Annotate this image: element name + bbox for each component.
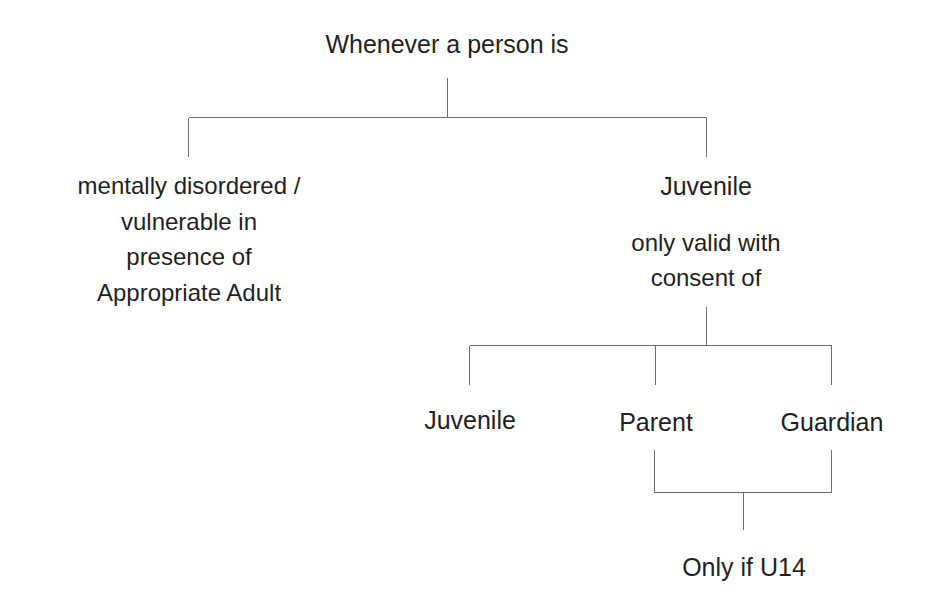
node-root: Whenever a person is <box>325 27 568 63</box>
node-consent-parent-label: Parent <box>619 405 693 441</box>
node-age-condition-label: Only if U14 <box>682 550 806 586</box>
node-mentally-disordered-line-4: Appropriate Adult <box>78 275 301 311</box>
node-mentally-disordered-line-1: mentally disordered / <box>78 168 301 204</box>
node-juvenile-branch-label: Juvenile <box>660 169 752 205</box>
node-mentally-disordered-line-2: vulnerable in <box>78 204 301 240</box>
node-consent-guardian-label: Guardian <box>781 405 884 441</box>
node-consent-requirement-line-2: consent of <box>631 261 780 296</box>
node-mentally-disordered-line-3: presence of <box>78 239 301 275</box>
node-consent-guardian: Guardian <box>781 405 884 441</box>
node-age-condition: Only if U14 <box>682 550 806 586</box>
flowchart-diagram: Whenever a person is mentally disordered… <box>0 0 938 616</box>
node-consent-parent: Parent <box>619 405 693 441</box>
node-consent-requirement: only valid with consent of <box>631 226 780 296</box>
node-root-label: Whenever a person is <box>325 27 568 63</box>
node-consent-juvenile-label: Juvenile <box>424 403 516 439</box>
node-mentally-disordered-vulnerable: mentally disordered / vulnerable in pres… <box>78 168 301 310</box>
node-juvenile-branch-title: Juvenile <box>660 169 752 205</box>
node-consent-requirement-line-1: only valid with <box>631 226 780 261</box>
node-consent-juvenile: Juvenile <box>424 403 516 439</box>
